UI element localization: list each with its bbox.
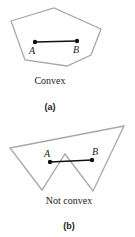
point-a-dot bbox=[33, 40, 37, 44]
point-b-label: B bbox=[73, 44, 79, 55]
panel-label-a: (a) bbox=[45, 102, 56, 112]
figure-b-not-convex: A B Not convex (b) bbox=[10, 126, 124, 231]
point-a-label: A bbox=[43, 148, 51, 159]
point-a-dot bbox=[48, 160, 52, 164]
point-b-dot bbox=[75, 39, 79, 43]
segment-ab bbox=[35, 41, 77, 42]
panel-label-b: (b) bbox=[63, 221, 75, 231]
convexity-diagram: A B Convex (a) A B Not convex (b) bbox=[0, 0, 135, 237]
non-convex-polygon bbox=[10, 126, 124, 191]
figure-a-convex: A B Convex (a) bbox=[11, 8, 101, 112]
caption-not-convex: Not convex bbox=[46, 195, 92, 206]
point-b-label: B bbox=[92, 146, 98, 157]
point-a-label: A bbox=[28, 45, 36, 56]
point-b-dot bbox=[90, 158, 94, 162]
convex-polygon bbox=[11, 8, 101, 66]
caption-convex: Convex bbox=[34, 75, 65, 86]
